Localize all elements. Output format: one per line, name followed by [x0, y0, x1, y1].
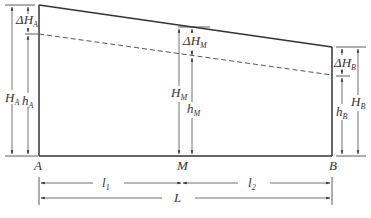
label-l1: l1 [102, 175, 110, 192]
label-delta-HM: ΔHM [182, 33, 208, 50]
profile-outline [39, 5, 332, 156]
point-B-label: B [329, 158, 337, 173]
length-dimensions [39, 177, 332, 205]
label-l2: l2 [248, 175, 256, 192]
label-delta-HA: ΔHA [15, 12, 38, 29]
label-delta-HB: ΔHB [333, 55, 356, 72]
diagram-canvas: ΔHA HA hA ΔHM HM hM ΔHB HB hB A M B [0, 0, 371, 218]
point-M-label: M [176, 158, 189, 173]
point-A-label: A [33, 158, 42, 173]
label-L: L [173, 190, 181, 205]
